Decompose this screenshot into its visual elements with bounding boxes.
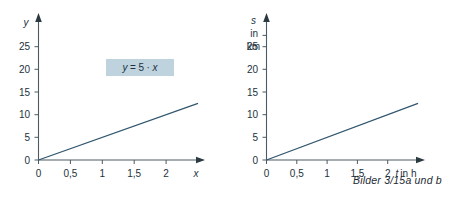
- formula-a-lhs: y: [121, 62, 129, 73]
- data-line-a: [39, 103, 199, 160]
- x-tick-label-a-1.5: 1,5: [127, 168, 141, 179]
- y-tick-label-b-15: 15: [247, 87, 259, 98]
- y-tick-label-a-20: 20: [19, 64, 31, 75]
- data-line-b: [267, 103, 419, 160]
- y-axis-label-a: y: [23, 17, 30, 28]
- y-axis-arrow-a: [35, 13, 42, 22]
- formula-a-coefficient: 5: [137, 62, 145, 73]
- x-tick-label-b-0.5: 0,5: [290, 168, 304, 179]
- formula-a-variable: x: [151, 62, 159, 73]
- chart-b-svg: 0 5 10 15 20 25 0 0,5 1 1,5 2 s in km ti…: [230, 0, 460, 198]
- x-tick-label-a-2: 2: [163, 168, 169, 179]
- y-tick-label-b-20: 20: [247, 64, 259, 75]
- x-tick-label-a-0: 0: [36, 168, 42, 179]
- formula-a-equals: =: [129, 62, 137, 73]
- figure-root: 0 5 10 15 20 25 0 0,5 1 1,5 2 y x y = 5 …: [0, 0, 460, 198]
- y-tick-label-b-10: 10: [247, 109, 259, 120]
- x-tick-label-a-1: 1: [100, 168, 106, 179]
- x-tick-label-b-1: 1: [324, 168, 330, 179]
- y-tick-label-a-15: 15: [19, 87, 31, 98]
- y-tick-label-a-25: 25: [19, 41, 31, 52]
- chart-a-svg: 0 5 10 15 20 25 0 0,5 1 1,5 2 y x: [0, 0, 230, 198]
- x-tick-label-a-0.5: 0,5: [63, 168, 77, 179]
- x-axis-label-a: x: [193, 168, 200, 179]
- chart-panel-b: 0 5 10 15 20 25 0 0,5 1 1,5 2 s in km ti…: [230, 0, 460, 198]
- y-tick-label-a-10: 10: [19, 109, 31, 120]
- y-tick-label-a-0: 0: [24, 155, 30, 166]
- y-axis-label-b-in: in: [250, 28, 258, 39]
- y-tick-label-b-5: 5: [252, 132, 258, 143]
- y-axis-arrow-b: [263, 13, 270, 22]
- chart-panel-a: 0 5 10 15 20 25 0 0,5 1 1,5 2 y x y = 5 …: [0, 0, 230, 198]
- x-axis-arrow-a: [196, 157, 205, 163]
- x-tick-label-b-0: 0: [264, 168, 270, 179]
- formula-annotation-a: y = 5 · x: [106, 59, 174, 76]
- y-axis-label-b-unit: km: [247, 41, 260, 52]
- y-tick-label-b-0: 0: [252, 155, 258, 166]
- y-axis-label-b-symbol: s: [251, 15, 256, 26]
- x-axis-arrow-b: [416, 157, 425, 163]
- y-tick-label-a-5: 5: [24, 132, 30, 143]
- figure-caption: Bilder 3/15a und b: [353, 174, 442, 186]
